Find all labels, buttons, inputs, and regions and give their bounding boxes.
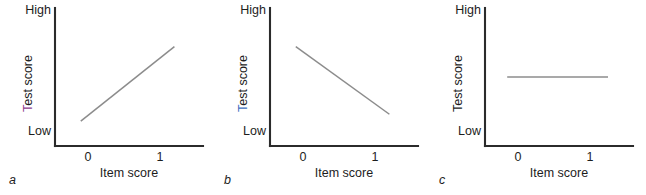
y-axis-low-label-b: Low	[215, 125, 266, 138]
x-tick-label-b-1: 1	[365, 151, 385, 164]
y-axis-high-label-b: High	[215, 4, 266, 17]
trend-line-a	[81, 47, 175, 122]
y-axis-low-label-c: Low	[430, 125, 481, 138]
y-axis-title-initial-c: T	[451, 106, 465, 112]
panel-letter-a: a	[9, 174, 16, 187]
x-axis-title-c: Item score	[485, 167, 633, 180]
y-axis-title-rest-b: est score	[236, 55, 250, 106]
panel-letter-b: b	[224, 174, 231, 187]
y-axis-low-label-a: Low	[0, 125, 51, 138]
panel-letter-c: c	[439, 174, 445, 187]
y-axis-title-initial-a: T	[21, 106, 35, 112]
y-axis-title-c: Test score	[452, 55, 465, 112]
x-tick-label-c-1: 1	[580, 151, 600, 164]
panel-b: HighLow01Item scoreTest scoreb	[215, 0, 430, 195]
y-axis-title-initial-b: T	[236, 106, 250, 112]
y-axis-title-b: Test score	[237, 55, 250, 112]
panel-c: HighLow01Item scoreTest scorec	[430, 0, 645, 195]
trend-line-b	[296, 47, 390, 115]
x-axis-title-a: Item score	[55, 167, 203, 180]
x-tick-label-a-1: 1	[150, 151, 170, 164]
y-axis-high-label-c: High	[430, 4, 481, 17]
y-axis-title-rest-c: est score	[451, 55, 465, 106]
panel-a: HighLow01Item scoreTest scorea	[0, 0, 215, 195]
x-tick-label-a-0: 0	[78, 151, 98, 164]
x-axis-title-b: Item score	[270, 167, 418, 180]
figure-three-item-discrimination-plots: HighLow01Item scoreTest scoreaHighLow01I…	[0, 0, 646, 195]
x-tick-label-c-0: 0	[508, 151, 528, 164]
y-axis-title-rest-a: est score	[21, 55, 35, 106]
y-axis-high-label-a: High	[0, 4, 51, 17]
x-tick-label-b-0: 0	[293, 151, 313, 164]
y-axis-title-a: Test score	[22, 55, 35, 112]
